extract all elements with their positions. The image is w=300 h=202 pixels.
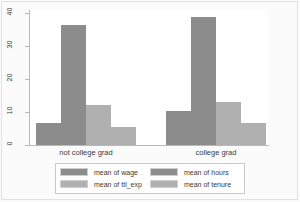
legend-label-wage: mean of wage (94, 169, 138, 176)
chart-figure: 010203040 not college gradcollege grad m… (0, 0, 300, 202)
legend-item-ttl-exp: mean of ttl_exp (60, 178, 150, 190)
x-axis-line (29, 145, 269, 146)
legend-swatch-icon-hours (150, 168, 178, 176)
legend-label-hours: mean of hours (184, 169, 229, 176)
chart-legend: mean of wage mean of hours mean of ttl_e… (55, 163, 245, 194)
legend-row: mean of ttl_exp mean of tenure (60, 178, 240, 190)
y-tick-label: 10 (6, 98, 13, 124)
y-tick-mark (25, 145, 29, 146)
legend-label-ttl-exp: mean of ttl_exp (94, 181, 142, 188)
y-tick-mark (25, 13, 29, 14)
legend-swatch-icon-ttl-exp (60, 180, 88, 188)
legend-item-tenure: mean of tenure (150, 178, 240, 190)
legend-swatch-icon-wage (60, 168, 88, 176)
x-axis-category-label: college grad (166, 148, 266, 157)
y-tick-mark (25, 112, 29, 113)
bar (86, 105, 111, 145)
y-tick-mark (25, 46, 29, 47)
bar (191, 17, 216, 145)
y-tick-label: 30 (6, 32, 13, 58)
bar (36, 123, 61, 145)
y-tick-mark (25, 79, 29, 80)
bars-layer (30, 10, 268, 145)
y-tick-label: 40 (6, 0, 13, 25)
y-tick-label: 20 (6, 65, 13, 91)
bar (166, 111, 191, 145)
bar (111, 127, 136, 145)
y-tick-label: 0 (6, 131, 13, 157)
legend-label-tenure: mean of tenure (184, 181, 231, 188)
bar (61, 25, 86, 146)
legend-row: mean of wage mean of hours (60, 166, 240, 178)
legend-swatch-icon-tenure (150, 180, 178, 188)
bar (216, 102, 241, 145)
x-axis-category-label: not college grad (36, 148, 136, 157)
bar (241, 123, 266, 145)
legend-item-hours: mean of hours (150, 166, 240, 178)
legend-item-wage: mean of wage (60, 166, 150, 178)
